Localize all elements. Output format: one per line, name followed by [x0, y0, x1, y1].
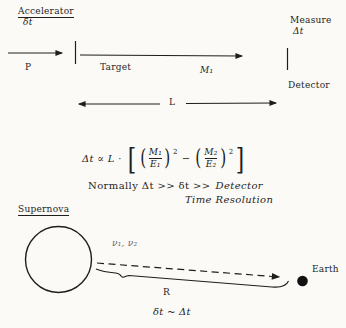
term1-exponent: 2 — [173, 148, 178, 156]
neutrino-trajectory-arrow — [97, 263, 279, 277]
mass1-flight-arrow — [80, 55, 242, 56]
term2-close-paren: ) — [220, 148, 226, 168]
formula-minus-sign: − — [182, 153, 191, 164]
formula-open-bracket: [ — [127, 145, 136, 172]
term1-close-paren: ) — [164, 148, 170, 168]
normally-note-line: Normally Δt >> δt >> Detector — [88, 180, 263, 191]
supernova-label: Supernova — [18, 204, 69, 216]
formula-term1: ( M₁ E₁ ) 2 — [139, 147, 178, 169]
note-detector-word: Detector — [216, 180, 264, 191]
time-of-flight-formula: Δt ∝ L · [ ( M₁ E₁ ) 2 − ( M₂ E₂ ) 2 ] — [82, 141, 246, 175]
detector-label: Detector — [288, 80, 330, 90]
earth-label: Earth — [312, 264, 339, 274]
baseline-arrow-right — [186, 103, 276, 104]
formula-close-bracket: ] — [236, 145, 245, 172]
baseline-label: L — [169, 97, 175, 107]
earth-dot — [297, 276, 308, 287]
formula-term2: ( M₂ E₂ ) 2 — [194, 147, 233, 169]
term2-exponent: 2 — [229, 148, 234, 156]
term1-open-paren: ( — [140, 148, 146, 168]
accelerator-jitter-label: δt — [23, 17, 33, 27]
distance-brace — [96, 269, 289, 287]
time-resolution-label: Time Resolution — [185, 194, 273, 205]
note-prefix: Normally Δt >> δt >> — [88, 180, 211, 191]
measure-quantity-label: Δt — [293, 26, 304, 36]
formula-lhs: Δt ∝ L · — [82, 153, 122, 164]
distance-label: R — [163, 287, 170, 297]
neutrino-types-label: ν₁, ν₂ — [112, 238, 137, 248]
proton-label: P — [25, 62, 31, 72]
time-relation-label: δt ~ Δt — [153, 306, 191, 318]
term2-fraction: M₂ E₂ — [204, 147, 217, 169]
scanned-physics-diagram: Accelerator δt P Target M₁ Measure Δt De… — [0, 0, 346, 328]
target-label: Target — [100, 62, 131, 72]
term1-denominator: E₁ — [149, 158, 162, 169]
term2-open-paren: ( — [196, 148, 202, 168]
term2-denominator: E₂ — [205, 158, 218, 169]
measure-label: Measure — [290, 15, 332, 25]
term2-numerator: M₂ — [204, 147, 217, 157]
supernova-circle — [26, 227, 92, 293]
term1-fraction: M₁ E₁ — [149, 147, 162, 169]
term1-numerator: M₁ — [149, 147, 162, 157]
mass1-label: M₁ — [200, 65, 213, 75]
